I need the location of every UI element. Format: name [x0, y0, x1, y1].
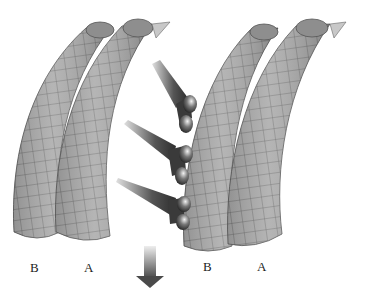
motor-head-icon [179, 145, 193, 163]
motor-head-icon [183, 95, 197, 113]
axoneme-diagram [0, 0, 368, 300]
label-left-a: A [84, 260, 93, 276]
label-right-b: B [203, 259, 212, 275]
motor-head-icon [179, 115, 193, 133]
right-doublet [184, 19, 346, 251]
connector-arm-1 [152, 60, 197, 133]
down-arrow-icon [136, 246, 164, 288]
motor-head-icon [176, 214, 190, 230]
label-left-b: B [30, 260, 39, 276]
connector-arm-3 [116, 178, 191, 230]
motor-head-icon [175, 167, 189, 185]
tubule-right-a-lumen [296, 19, 328, 37]
label-right-a: A [257, 259, 266, 275]
tubule-left-a-lumen [123, 19, 153, 37]
motor-head-icon [177, 196, 191, 212]
tubule-left-b-lumen [86, 22, 114, 38]
tubule-right-b-lumen [250, 24, 278, 40]
left-doublet [13, 19, 170, 240]
